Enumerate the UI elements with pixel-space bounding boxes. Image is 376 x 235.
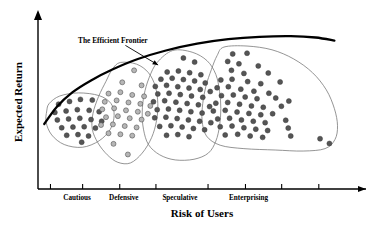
- data-point: [230, 77, 235, 82]
- data-point: [75, 107, 80, 112]
- data-point: [59, 125, 64, 130]
- data-point: [207, 104, 212, 109]
- data-point: [152, 115, 157, 120]
- data-point: [122, 124, 127, 129]
- data-point: [245, 51, 250, 56]
- data-point: [236, 61, 241, 66]
- data-point: [248, 133, 253, 138]
- data-point: [241, 71, 246, 76]
- data-point: [246, 111, 251, 116]
- data-point: [200, 95, 205, 100]
- data-point: [164, 133, 169, 138]
- data-point: [273, 96, 278, 101]
- data-point: [258, 112, 263, 117]
- data-point: [145, 111, 150, 116]
- data-point: [225, 59, 230, 64]
- data-point: [82, 124, 87, 129]
- data-point: [196, 102, 201, 107]
- data-point: [77, 116, 82, 121]
- data-point: [180, 125, 185, 130]
- data-point: [138, 101, 143, 106]
- data-point: [64, 109, 69, 114]
- data-point: [164, 83, 169, 88]
- data-point: [135, 109, 140, 114]
- data-point: [163, 115, 168, 120]
- chart-canvas: CautiousDefensiveSpeculativeEnterprising…: [0, 0, 376, 235]
- data-point: [187, 70, 192, 75]
- data-point: [176, 69, 181, 74]
- data-point: [266, 91, 271, 96]
- data-point: [202, 127, 207, 132]
- x-axis-arrow-icon: [358, 186, 366, 192]
- data-point: [139, 83, 144, 88]
- x-tick-label-defensive: Defensive: [109, 194, 139, 202]
- x-tick-label-cautious: Cautious: [63, 194, 91, 202]
- data-point: [162, 98, 167, 103]
- data-point: [187, 134, 192, 139]
- data-point: [256, 63, 261, 68]
- data-point: [67, 99, 72, 104]
- cluster-outline-enterprising: [202, 46, 338, 151]
- data-point: [235, 132, 240, 137]
- data-point: [110, 122, 115, 127]
- data-point: [241, 125, 246, 130]
- data-point: [166, 106, 171, 111]
- data-point: [261, 105, 266, 110]
- cluster-hulls: [46, 46, 338, 164]
- data-point: [102, 99, 107, 104]
- series-defensive: [99, 68, 153, 157]
- data-point: [114, 98, 119, 103]
- data-point: [185, 101, 190, 106]
- data-point: [215, 116, 220, 121]
- data-point: [151, 99, 156, 104]
- data-point: [249, 103, 254, 108]
- data-point: [251, 119, 256, 124]
- data-point: [208, 89, 213, 94]
- data-point: [219, 93, 224, 98]
- data-point: [70, 125, 75, 130]
- data-point: [318, 136, 323, 141]
- data-point: [243, 95, 248, 100]
- data-point: [86, 133, 91, 138]
- data-point: [126, 100, 131, 105]
- data-point: [87, 108, 92, 113]
- data-point: [251, 89, 256, 94]
- data-point: [130, 133, 135, 138]
- data-point: [64, 133, 69, 138]
- data-point: [165, 70, 170, 75]
- data-point: [106, 91, 111, 96]
- data-point: [115, 114, 120, 119]
- data-point: [229, 68, 234, 73]
- scatter-chart: CautiousDefensiveSpeculativeEnterprising…: [0, 0, 376, 235]
- data-point: [104, 115, 109, 120]
- data-point: [106, 131, 111, 136]
- y-axis-title: Expected Return: [12, 62, 24, 142]
- data-point: [286, 99, 291, 104]
- data-point: [79, 140, 84, 145]
- data-point: [270, 111, 275, 116]
- data-point: [130, 92, 135, 97]
- data-point: [213, 101, 218, 106]
- data-point: [66, 116, 71, 121]
- data-point: [132, 68, 137, 73]
- data-point: [90, 98, 95, 103]
- x-tick-label-speculative: Speculative: [162, 194, 197, 202]
- data-point: [134, 125, 139, 130]
- data-point: [192, 78, 197, 83]
- data-point: [198, 87, 203, 92]
- data-point: [258, 81, 263, 86]
- data-point: [175, 84, 180, 89]
- data-point: [127, 116, 132, 121]
- data-point: [167, 91, 172, 96]
- series-speculative: [151, 56, 213, 140]
- data-point: [177, 108, 182, 113]
- data-point: [238, 87, 243, 92]
- data-point: [198, 72, 203, 77]
- data-point: [327, 141, 332, 146]
- data-point: [230, 51, 235, 56]
- data-point: [218, 77, 223, 82]
- data-point: [215, 85, 220, 90]
- data-point: [231, 92, 236, 97]
- data-point: [266, 71, 271, 76]
- data-point: [186, 117, 191, 122]
